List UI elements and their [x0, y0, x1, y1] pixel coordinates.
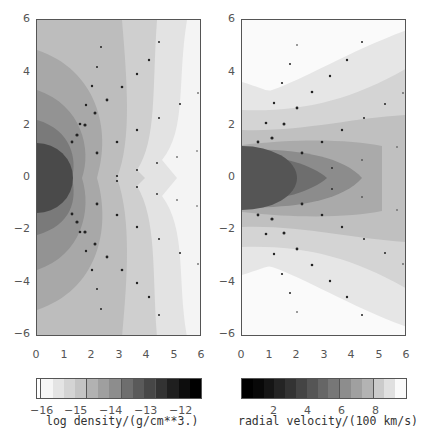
y-tick: 4	[213, 65, 235, 78]
y-tick: 6	[213, 12, 235, 25]
velocity-contour-map	[242, 20, 406, 336]
x-tick: 5	[166, 348, 182, 361]
x-tick: 4	[138, 348, 154, 361]
y-tick: −2	[8, 222, 30, 235]
x-tick: 5	[371, 348, 387, 361]
y-tick: 2	[8, 118, 30, 131]
x-tick: 0	[233, 348, 249, 361]
y-tick: −2	[213, 222, 235, 235]
density-plot	[36, 19, 201, 336]
x-tick: 3	[316, 348, 332, 361]
velocity-colorbar	[241, 378, 407, 399]
x-tick: 2	[288, 348, 304, 361]
x-tick: 6	[398, 348, 414, 361]
density-colorbar-label: log density/(g/cm**3.)	[46, 414, 198, 428]
x-tick: 4	[343, 348, 359, 361]
y-tick: 6	[8, 12, 30, 25]
x-tick: 3	[111, 348, 127, 361]
velocity-plot	[241, 19, 406, 336]
y-tick: 2	[213, 118, 235, 131]
x-tick: 0	[28, 348, 44, 361]
y-tick: 4	[8, 65, 30, 78]
density-colorbar	[36, 378, 202, 399]
density-contour-map	[37, 20, 201, 336]
y-tick: −4	[8, 275, 30, 288]
x-tick: 1	[56, 348, 72, 361]
y-tick: 0	[213, 170, 235, 183]
x-tick: 6	[193, 348, 209, 361]
y-tick: 0	[8, 170, 30, 183]
y-tick: −4	[213, 275, 235, 288]
y-tick: −6	[213, 327, 235, 340]
velocity-colorbar-label: radial velocity/(100 km/s)	[238, 414, 418, 428]
x-tick: 1	[261, 348, 277, 361]
x-tick: 2	[83, 348, 99, 361]
y-tick: −6	[8, 327, 30, 340]
